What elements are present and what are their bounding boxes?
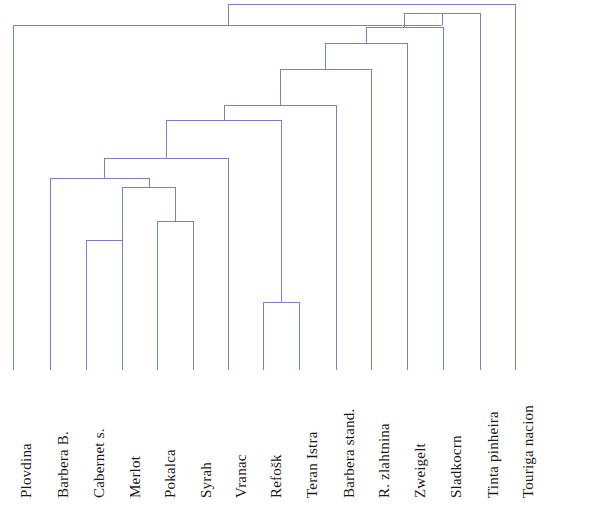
leaf-label: Merlot (128, 456, 143, 498)
leaf-label: Refošk (269, 454, 284, 498)
leaf-label: Syrah (199, 462, 214, 498)
leaf-label: Barbera B. (56, 431, 71, 498)
leaf-label: R. zlahtnina (377, 423, 392, 498)
leaf-label: Sladkocrn (449, 435, 464, 498)
dendrogram-links (13, 4, 515, 370)
leaf-label: Vranac (234, 454, 249, 498)
leaf-label: Plovdina (19, 443, 34, 498)
dendrogram-figure: PlovdinaBarbera B.Cabernet s.MerlotPokal… (0, 0, 614, 506)
leaf-label: Zweigelt (413, 443, 428, 498)
leaf-label: Teran Istra (305, 431, 320, 498)
leaf-label: Touriga nacion (521, 405, 536, 498)
leaf-label: Barbera stand. (342, 409, 357, 498)
leaf-label: Pokalca (163, 449, 178, 498)
leaf-label: Tinta pinheira (486, 411, 501, 498)
leaf-label: Cabernet s. (92, 428, 107, 498)
